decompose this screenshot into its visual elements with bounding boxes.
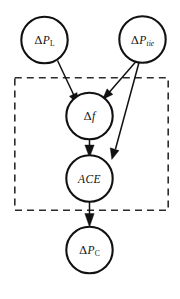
base-glyph-pc: P [88, 244, 95, 256]
subscript-ptie: tie [147, 38, 155, 47]
edge-ace-to-delta-pc [85, 202, 94, 227]
node-label-delta-ptie: ΔPtie [131, 34, 154, 47]
node-label-ace: ACE [78, 174, 101, 186]
delta-glyph-f: Δ [84, 109, 93, 123]
subscript-pl: L [50, 39, 55, 48]
base-glyph-pl: P [43, 34, 50, 46]
node-label-delta-pc: ΔPC [79, 245, 100, 258]
base-glyph-ptie: P [139, 33, 146, 45]
base-glyph-f: f [92, 110, 95, 122]
delta-glyph-pl: Δ [34, 33, 43, 47]
node-label-delta-pl: ΔPL [34, 35, 54, 48]
node-label-delta-f: Δf [84, 111, 96, 123]
subscript-pc: C [95, 249, 100, 258]
delta-glyph-ptie: Δ [131, 32, 140, 46]
delta-glyph-pc: Δ [79, 243, 88, 257]
base-glyph-ace: ACE [78, 173, 101, 185]
diagram-canvas: ΔPL ΔPtie Δf ACE ΔPC [0, 0, 180, 299]
